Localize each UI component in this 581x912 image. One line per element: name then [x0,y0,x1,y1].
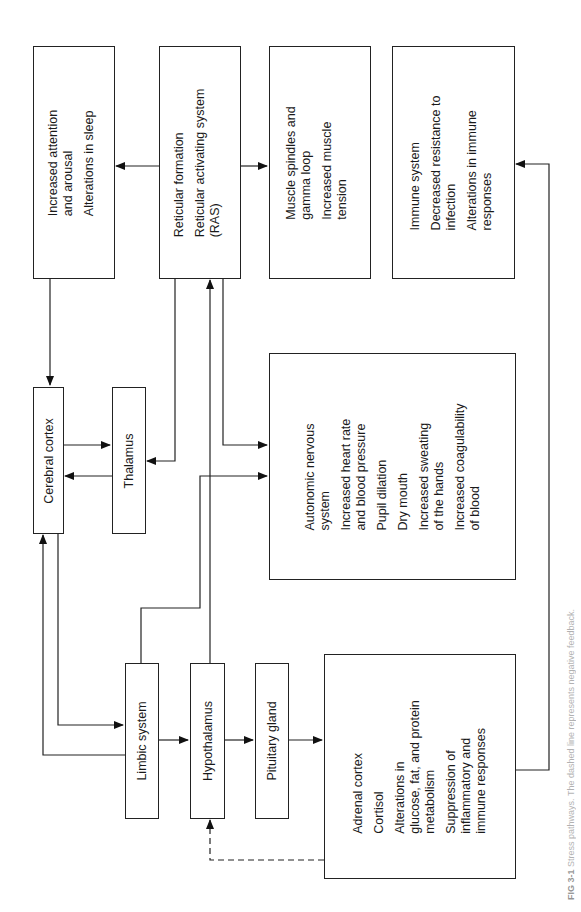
edge-reticular-autonomic [223,278,267,445]
edge-adrenal-immune [515,164,549,770]
muscle-text: Muscle spindles and gamma loop Increased… [284,106,356,219]
muscle-line: Muscle spindles and gamma loop [284,106,314,219]
edge-cortex-limbic [58,533,123,725]
attention-line: Increased attention and arousal [46,109,76,215]
edge-limbic-autonomic [141,476,267,663]
immune-line: Immune system [407,95,422,230]
adrenal-line: Suppression of inflammatory and immune r… [444,700,489,833]
thalamus-box: Thalamus [112,387,146,534]
autonomic-text: Autonomic nervous system Increased heart… [303,403,483,530]
immune-line: Alterations in immune responses [464,95,494,230]
reticular-text: Reticular formation Reticular activating… [172,88,229,237]
attention-box: Increased attention and arousal Alterati… [33,46,115,279]
pituitary-label: Pituitary gland [265,701,280,780]
attention-text: Increased attention and arousal Alterati… [46,109,103,215]
autonomic-box: Autonomic nervous system Increased heart… [269,353,516,580]
cortex-label: Cerebral cortex [41,418,56,503]
cortex-text: Cerebral cortex [41,418,56,503]
figure-caption: FIG 3-1 Stress pathways. The dashed line… [566,609,576,900]
immune-text: Immune system Decreased resistance to in… [407,95,500,230]
limbic-label: Limbic system [135,701,150,780]
caption-label: FIG 3-1 [566,869,576,900]
attention-line: Alterations in sleep [82,109,97,215]
autonomic-line: Autonomic nervous system [303,403,333,530]
hypothalamus-box: Hypothalamus [190,663,225,819]
pituitary-text: Pituitary gland [265,701,280,780]
edge-limbic-cortex [43,535,125,755]
reticular-line: Reticular formation [172,88,187,237]
autonomic-line: Dry mouth [396,403,411,530]
autonomic-line: Increased sweating of the hands [417,403,447,530]
reticular-line: Reticular activating system (RAS) [193,88,223,237]
cerebral-cortex-box: Cerebral cortex [33,387,64,534]
caption-text: Stress pathways. The dashed line represe… [566,609,576,867]
adrenal-line: Alterations in glucose, fat, and protein… [393,700,438,833]
edge-reticular-thalamus [147,278,175,461]
immune-line: Decreased resistance to infection [428,95,458,230]
pituitary-gland-box: Pituitary gland [255,663,289,819]
autonomic-line: Increased heart rate and blood pressure [339,403,369,530]
autonomic-line: Pupil dilation [375,403,390,530]
immune-box: Immune system Decreased resistance to in… [392,46,515,279]
reticular-box: Reticular formation Reticular activating… [159,46,241,279]
adrenal-line: Adrenal cortex [351,700,366,833]
muscle-box: Muscle spindles and gamma loop Increased… [269,46,371,279]
hypothalamus-label: Hypothalamus [200,701,215,781]
limbic-text: Limbic system [135,701,150,780]
thalamus-text: Thalamus [122,433,137,488]
muscle-line: Increased muscle tension [320,106,350,219]
adrenal-line: Cortisol [372,700,387,833]
adrenal-text: Adrenal cortex Cortisol Alterations in g… [351,700,489,833]
edge-adrenal-hypothalamus-dashed [210,820,324,860]
thalamus-label: Thalamus [122,433,137,488]
autonomic-line: Increased coagulability of blood [453,403,483,530]
limbic-system-box: Limbic system [125,663,159,819]
adrenal-cortex-box: Adrenal cortex Cortisol Alterations in g… [324,654,516,879]
hypothalamus-text: Hypothalamus [200,701,215,781]
